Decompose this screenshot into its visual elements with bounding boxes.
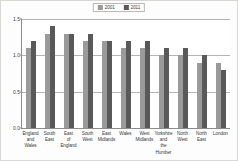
bar bbox=[221, 70, 226, 128]
y-axis-tick-label: 0.5 bbox=[13, 89, 20, 94]
bar bbox=[126, 41, 131, 128]
bar bbox=[202, 55, 207, 128]
bar bbox=[183, 48, 188, 128]
y-axis-tick-label: 1.5 bbox=[13, 17, 20, 22]
x-axis-label: South East bbox=[40, 131, 59, 143]
bar bbox=[50, 26, 55, 128]
bar-group bbox=[173, 19, 192, 128]
bar-group bbox=[135, 19, 154, 128]
chart-screenshot: 2001 2011 0.00.51.01.5 England and Wales… bbox=[0, 0, 238, 161]
bar bbox=[88, 34, 93, 128]
legend-entry-2001: 2001 bbox=[98, 5, 115, 10]
plot-area: 0.00.51.01.5 bbox=[21, 19, 230, 129]
x-axis-labels: England and WalesSouth EastEast of Engla… bbox=[21, 131, 230, 160]
x-axis-label: England and Wales bbox=[21, 131, 40, 150]
y-axis-tick-label: 0.0 bbox=[13, 126, 20, 131]
bar bbox=[31, 41, 36, 128]
x-axis-label: London bbox=[211, 131, 230, 137]
bar-group bbox=[41, 19, 60, 128]
bar-group bbox=[154, 19, 173, 128]
bar-group bbox=[192, 19, 211, 128]
x-axis-label: East Midlands bbox=[97, 131, 116, 143]
chart-legend: 2001 2011 bbox=[93, 3, 145, 12]
bar-group bbox=[22, 19, 41, 128]
legend-swatch-2001 bbox=[98, 5, 103, 10]
legend-swatch-2011 bbox=[124, 5, 129, 10]
bar bbox=[164, 48, 169, 128]
y-axis-tick-label: 1.0 bbox=[13, 53, 20, 58]
bar-group bbox=[117, 19, 136, 128]
bar-group bbox=[211, 19, 230, 128]
bars-layer bbox=[22, 19, 230, 128]
x-axis-label: Yorkshire and the Humber bbox=[154, 131, 173, 156]
x-axis-label: East of England bbox=[59, 131, 78, 150]
x-axis-label: North West bbox=[173, 131, 192, 143]
x-axis-label: North East bbox=[192, 131, 211, 143]
legend-label-2011: 2011 bbox=[131, 5, 140, 10]
legend-entry-2011: 2011 bbox=[124, 5, 140, 10]
bar-group bbox=[98, 19, 117, 128]
bar bbox=[145, 41, 150, 128]
bar bbox=[107, 41, 112, 128]
bar bbox=[69, 34, 74, 128]
bar-group bbox=[79, 19, 98, 128]
bar-group bbox=[60, 19, 79, 128]
x-axis-label: South West bbox=[78, 131, 97, 143]
x-axis-label: Wales bbox=[116, 131, 135, 137]
x-axis-label: West Midlands bbox=[135, 131, 154, 143]
legend-label-2001: 2001 bbox=[105, 5, 115, 10]
